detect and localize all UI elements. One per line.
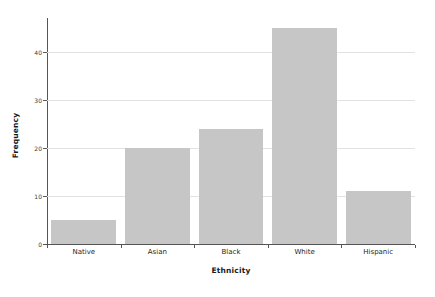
y-axis-tick-labels: 010203040 xyxy=(10,0,42,297)
bar-hispanic[interactable] xyxy=(346,191,411,244)
bar-chart-figure: Frequency 010203040 NativeAsianBlackWhit… xyxy=(0,0,435,297)
bar-white[interactable] xyxy=(272,28,337,244)
x-tick-label-black: Black xyxy=(222,248,241,256)
y-tick-mark-20 xyxy=(43,148,47,149)
bar-series xyxy=(47,18,415,244)
x-tick-mark-0 xyxy=(47,245,48,248)
bar-black[interactable] xyxy=(199,129,264,244)
bar-asian[interactable] xyxy=(125,148,190,244)
x-tick-label-asian: Asian xyxy=(148,248,167,256)
x-tick-label-hispanic: Hispanic xyxy=(363,248,393,256)
y-tick-label-10: 10 xyxy=(16,192,42,199)
x-tick-mark-5 xyxy=(415,245,416,248)
y-tick-label-20: 20 xyxy=(16,144,42,151)
plot-area xyxy=(47,18,415,244)
y-tick-label-30: 30 xyxy=(16,96,42,103)
x-tick-label-native: Native xyxy=(72,248,95,256)
x-tick-mark-2 xyxy=(194,245,195,248)
y-tick-label-40: 40 xyxy=(16,48,42,55)
y-tick-mark-40 xyxy=(43,52,47,53)
y-tick-mark-30 xyxy=(43,100,47,101)
x-tick-mark-4 xyxy=(341,245,342,248)
x-axis-tick-labels: NativeAsianBlackWhiteHispanic xyxy=(47,248,415,262)
x-axis-spine xyxy=(47,244,415,245)
y-tick-mark-10 xyxy=(43,196,47,197)
y-tick-label-0: 0 xyxy=(16,241,42,248)
x-tick-label-white: White xyxy=(294,248,314,256)
x-axis-title: Ethnicity xyxy=(47,266,415,275)
bar-native[interactable] xyxy=(51,220,116,244)
x-tick-mark-3 xyxy=(268,245,269,248)
x-tick-mark-1 xyxy=(121,245,122,248)
